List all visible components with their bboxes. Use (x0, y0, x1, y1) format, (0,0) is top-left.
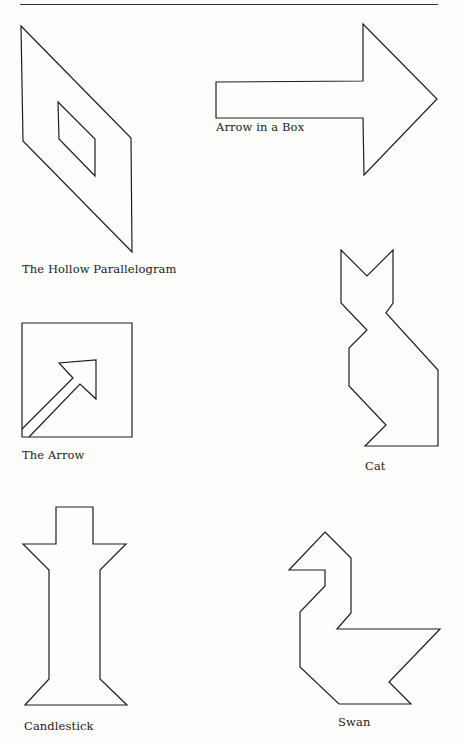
hollow-parallelogram-outline (21, 26, 132, 252)
hollow-parallelogram-inner-hole (58, 102, 95, 176)
cat-outline (341, 250, 438, 446)
swan-figure (289, 532, 440, 704)
caption-the-arrow: The Arrow (22, 448, 85, 462)
swan-outline (289, 532, 440, 704)
arrow-in-a-box-figure (216, 24, 437, 175)
the-arrow-box (22, 323, 132, 437)
candlestick-outline (23, 507, 127, 705)
caption-hollow-parallelogram: The Hollow Parallelogram (22, 262, 176, 276)
hollow-parallelogram-figure (21, 26, 132, 252)
caption-swan: Swan (338, 715, 370, 729)
the-arrow-inner-arrow (22, 360, 96, 437)
caption-arrow-in-a-box: Arrow in a Box (216, 120, 304, 134)
book-page: The Hollow Parallelogram Arrow in a Box … (0, 0, 465, 742)
tangram-figures (0, 0, 465, 742)
the-arrow-figure (22, 323, 132, 437)
caption-cat: Cat (365, 459, 386, 473)
arrow-in-a-box-outline (216, 24, 437, 175)
candlestick-figure (23, 507, 127, 705)
caption-candlestick: Candlestick (24, 719, 94, 733)
cat-figure (341, 250, 438, 446)
